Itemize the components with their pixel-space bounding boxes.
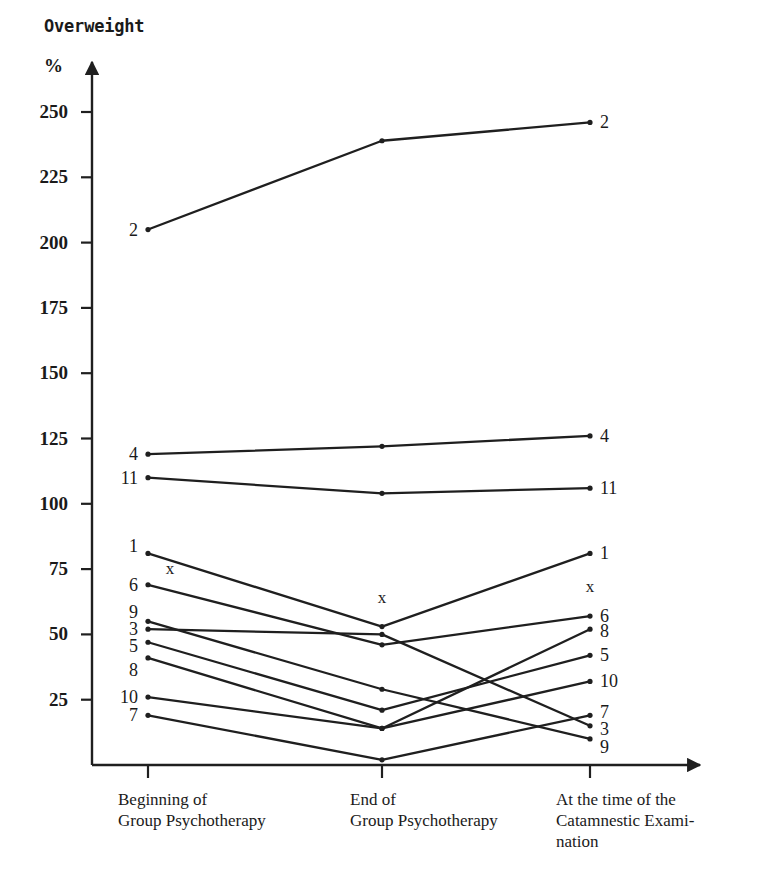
series-label-left-8: 8 [88, 659, 138, 680]
data-point-4-1 [379, 444, 384, 449]
data-point-1-2 [587, 551, 592, 556]
series-label-left-4: 4 [88, 444, 138, 465]
data-point-6-2 [587, 614, 592, 619]
data-point-9-2 [587, 736, 592, 741]
x-tick-label-0: Beginning of Group Psychotherapy [118, 789, 343, 831]
series-label-right-2: 2 [600, 112, 609, 133]
series-line-10 [148, 681, 590, 728]
data-point-5-0 [145, 640, 150, 645]
y-tick-label-100: 100 [12, 493, 68, 515]
series-label-right-5: 5 [600, 645, 609, 666]
data-point-2-0 [145, 227, 150, 232]
overweight-line-chart: Overweight % 255075100125150175200225250… [0, 0, 769, 870]
data-point-7-1 [379, 757, 384, 762]
series-label-right-1: 1 [600, 543, 609, 564]
series-line-9 [148, 621, 590, 739]
series-line-2 [148, 122, 590, 229]
data-point-10-1 [379, 726, 384, 731]
data-point-8-0 [145, 655, 150, 660]
y-tick-label-250: 250 [12, 101, 68, 123]
series-label-left-7: 7 [88, 705, 138, 726]
data-point-9-0 [145, 619, 150, 624]
y-tick-label-225: 225 [12, 166, 68, 188]
data-point-4-0 [145, 452, 150, 457]
data-point-5-2 [587, 653, 592, 658]
data-point-8-2 [587, 627, 592, 632]
series-line-1 [148, 553, 590, 626]
y-tick-label-150: 150 [12, 362, 68, 384]
chart-plot-area [0, 0, 769, 870]
data-point-11-2 [587, 486, 592, 491]
y-tick-label-25: 25 [12, 689, 68, 711]
data-point-1-1 [379, 624, 384, 629]
series-label-right-9: 9 [600, 736, 609, 757]
data-point-3-2 [587, 723, 592, 728]
data-point-1-0 [145, 551, 150, 556]
series-label-left-2: 2 [88, 219, 138, 240]
data-point-3-0 [145, 627, 150, 632]
data-point-5-1 [379, 708, 384, 713]
series-label-left-5: 5 [88, 636, 138, 657]
series-line-11 [148, 478, 590, 494]
series-label-right-4: 4 [600, 425, 609, 446]
data-point-11-0 [145, 475, 150, 480]
data-point-7-2 [587, 713, 592, 718]
series-line-4 [148, 436, 590, 454]
y-tick-label-50: 50 [12, 623, 68, 645]
data-point-4-2 [587, 433, 592, 438]
series-label-right-8: 8 [600, 621, 609, 642]
series-label-left-6: 6 [88, 574, 138, 595]
series-label-left-1: 1 [88, 536, 138, 557]
x-tick-label-2: At the time of the Catamnestic Exami- na… [556, 789, 766, 852]
series-line-6 [148, 585, 590, 645]
x-tick-label-1: End of Group Psychotherapy [350, 789, 555, 831]
series-label-right-11: 11 [600, 478, 617, 499]
data-point-2-2 [587, 120, 592, 125]
data-point-10-0 [145, 694, 150, 699]
series-line-8 [148, 629, 590, 728]
annotation-x-2: x [586, 577, 595, 597]
series-line-5 [148, 642, 590, 710]
annotation-x-1: x [378, 588, 387, 608]
series-label-right-10: 10 [600, 671, 618, 692]
y-tick-label-125: 125 [12, 428, 68, 450]
data-point-6-1 [379, 642, 384, 647]
y-tick-label-200: 200 [12, 232, 68, 254]
data-point-10-2 [587, 679, 592, 684]
series-label-right-7: 7 [600, 702, 609, 723]
data-point-11-1 [379, 491, 384, 496]
annotation-x-0: x [166, 559, 175, 579]
data-point-9-1 [379, 687, 384, 692]
y-tick-label-175: 175 [12, 297, 68, 319]
data-point-3-1 [379, 632, 384, 637]
y-tick-label-75: 75 [12, 558, 68, 580]
data-point-7-0 [145, 713, 150, 718]
series-label-left-11: 11 [88, 467, 138, 488]
data-point-6-0 [145, 582, 150, 587]
data-point-2-1 [379, 138, 384, 143]
